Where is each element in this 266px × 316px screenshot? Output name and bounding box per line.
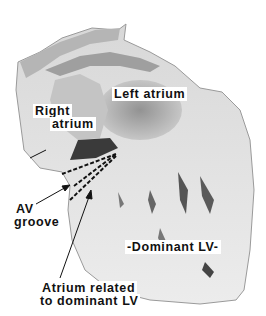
heart-specimen-photo bbox=[0, 0, 266, 316]
label-atrium-related-line2: to dominant LV bbox=[38, 294, 140, 308]
label-av-groove-line2: groove bbox=[14, 215, 59, 229]
label-left-atrium: Left atrium bbox=[112, 87, 187, 101]
label-dominant-lv: -Dominant LV- bbox=[125, 240, 221, 254]
label-atrium-related-line1: Atrium related bbox=[40, 281, 137, 295]
label-right-atrium-line1: Right bbox=[33, 104, 72, 118]
label-av-groove-line1: AV bbox=[16, 202, 34, 216]
specimen-figure: Left atrium Right atrium AV groove -Domi… bbox=[0, 0, 266, 316]
label-right-atrium-line2: atrium bbox=[50, 117, 96, 131]
